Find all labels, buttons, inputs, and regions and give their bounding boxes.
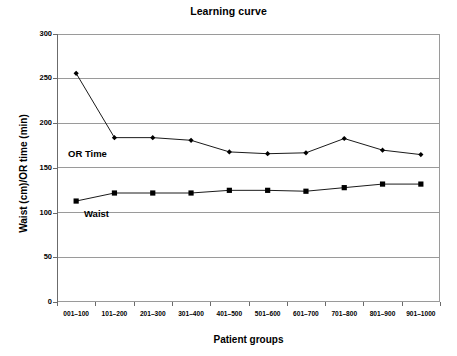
x-tick-10 <box>440 302 441 306</box>
y-tick-250 <box>53 78 57 79</box>
x-tick-8 <box>363 302 364 306</box>
x-tick-2 <box>134 302 135 306</box>
y-tick-50 <box>53 257 57 258</box>
x-axis-title: Patient groups <box>57 334 440 345</box>
x-tick-label-9: 901–1000 <box>391 310 451 317</box>
x-tick-3 <box>172 302 173 306</box>
x-tick-6 <box>287 302 288 306</box>
y-axis-title: Waist (cm)/OR time (min) <box>18 59 29 289</box>
series-label-or-time: OR Time <box>68 148 107 159</box>
gridline-150 <box>58 167 439 168</box>
y-tick-label-0: 0 <box>22 298 52 306</box>
y-tick-300 <box>53 34 57 35</box>
x-tick-0 <box>57 302 58 306</box>
gridline-50 <box>58 257 439 258</box>
series-label-waist: Waist <box>84 208 109 219</box>
x-tick-1 <box>95 302 96 306</box>
chart-title: Learning curve <box>0 5 457 17</box>
y-tick-label-300: 300 <box>22 30 52 38</box>
x-tick-7 <box>325 302 326 306</box>
gridline-200 <box>58 123 439 124</box>
y-tick-100 <box>53 213 57 214</box>
gridline-100 <box>58 212 439 213</box>
learning-curve-chart: Learning curve 300 250 200 150 100 50 0 … <box>0 0 457 356</box>
x-tick-4 <box>210 302 211 306</box>
y-tick-200 <box>53 123 57 124</box>
x-tick-9 <box>402 302 403 306</box>
plot-area <box>57 34 440 302</box>
gridline-250 <box>58 78 439 79</box>
y-axis-line <box>57 34 58 303</box>
y-tick-150 <box>53 168 57 169</box>
x-tick-5 <box>249 302 250 306</box>
